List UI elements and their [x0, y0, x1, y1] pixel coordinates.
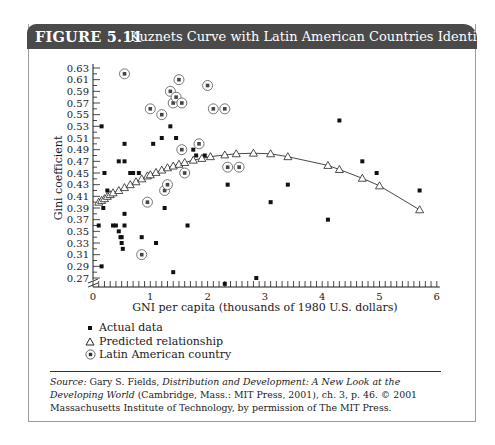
- legend-item-actual: Actual data: [84, 321, 231, 335]
- actual-data-point: [254, 276, 258, 280]
- predicted-point: [267, 150, 275, 157]
- circled-square-icon: [84, 349, 96, 360]
- source-author: Gary S. Fields,: [87, 376, 163, 387]
- y-tick-label: 0.35: [67, 226, 89, 237]
- predicted-point: [358, 174, 366, 181]
- x-axis-label: GNI per capita (thousands of 1980 U.S. d…: [132, 301, 397, 314]
- source-caption: Source: Gary S. Fields, Distribution and…: [50, 375, 450, 414]
- legend-label: Actual data: [99, 321, 163, 335]
- chart-legend: Actual data Predicted relationship Latin…: [84, 321, 231, 362]
- latin-america-point: [177, 98, 187, 108]
- actual-data-point: [223, 282, 227, 286]
- actual-data-point: [168, 124, 172, 128]
- latin-america-point: [162, 180, 172, 190]
- actual-data-point: [191, 148, 195, 152]
- latin-america-point: [194, 139, 204, 149]
- x-tick-label: 0: [90, 291, 96, 302]
- latin-america-point: [137, 250, 147, 260]
- actual-data-point: [160, 136, 164, 140]
- latin-america-point: [208, 104, 218, 114]
- latin-america-point: [234, 162, 244, 172]
- actual-data-point: [154, 241, 158, 245]
- actual-data-point: [337, 119, 341, 123]
- latin-america-point: [145, 104, 155, 114]
- latin-america-point: [220, 104, 230, 114]
- y-tick-label: 0.43: [67, 179, 89, 190]
- y-tick-label: 0.55: [67, 109, 89, 120]
- y-tick-label: 0.59: [67, 86, 89, 97]
- y-tick-label: 0.31: [67, 249, 89, 260]
- y-tick-label: 0.33: [67, 238, 89, 249]
- actual-data-point: [123, 224, 127, 228]
- predicted-point: [335, 166, 343, 173]
- latin-america-point: [177, 145, 187, 155]
- actual-data-point: [174, 136, 178, 140]
- actual-data-point: [123, 142, 127, 146]
- predicted-point: [249, 149, 257, 156]
- predicted-point: [232, 150, 240, 157]
- scatter-plot: 0.630.610.590.570.550.530.510.490.470.45…: [0, 0, 495, 330]
- actual-data-point: [226, 183, 230, 187]
- y-tick-label: 0.37: [67, 214, 89, 225]
- filled-square-icon: [84, 324, 96, 332]
- actual-data-point: [97, 224, 101, 228]
- actual-data-point: [186, 224, 190, 228]
- latin-america-point: [223, 162, 233, 172]
- actual-data-point: [120, 235, 124, 239]
- actual-data-point: [326, 218, 330, 222]
- latin-america-point: [157, 110, 167, 120]
- predicted-point: [416, 206, 424, 213]
- y-tick-label: 0.41: [67, 191, 89, 202]
- y-tick-label: 0.63: [67, 63, 89, 74]
- y-tick-label: 0.49: [67, 144, 89, 155]
- actual-data-point: [131, 171, 135, 175]
- latin-america-point: [174, 75, 184, 85]
- actual-data-point: [121, 247, 125, 251]
- data-points: [95, 69, 424, 286]
- actual-data-point: [100, 124, 104, 128]
- actual-data-point: [100, 264, 104, 268]
- latin-america-point: [142, 197, 152, 207]
- actual-data-point: [117, 159, 121, 163]
- actual-data-point: [140, 235, 144, 239]
- actual-data-point: [163, 206, 167, 210]
- latin-america-point: [180, 168, 190, 178]
- actual-data-point: [137, 171, 141, 175]
- actual-data-point: [114, 224, 118, 228]
- legend-item-predicted: Predicted relationship: [84, 335, 231, 349]
- actual-data-point: [101, 206, 105, 210]
- actual-data-point: [418, 189, 422, 193]
- actual-data-point: [375, 171, 379, 175]
- y-tick-label: 0.47: [67, 156, 89, 167]
- y-tick-label: 0.29: [67, 261, 89, 272]
- y-tick-label: 0.57: [67, 98, 89, 109]
- actual-data-point: [286, 183, 290, 187]
- y-axis-label: Gini coefficient: [52, 135, 65, 220]
- triangle-icon: [84, 337, 96, 346]
- actual-data-point: [360, 159, 364, 163]
- actual-data-point: [269, 200, 273, 204]
- actual-data-point: [117, 229, 121, 233]
- legend-label: Latin American country: [99, 348, 231, 362]
- legend-label: Predicted relationship: [99, 335, 223, 349]
- legend-item-latin-america: Latin American country: [84, 348, 231, 362]
- y-tick-label: 0.39: [67, 203, 89, 214]
- y-tick-label: 0.61: [67, 74, 89, 85]
- x-tick-label: 6: [434, 291, 440, 302]
- source-label: Source:: [50, 376, 87, 387]
- caption-divider: [50, 371, 441, 372]
- axes: 0.630.610.590.570.550.530.510.490.470.45…: [67, 63, 440, 303]
- latin-america-point: [120, 69, 130, 79]
- predicted-point: [376, 182, 384, 189]
- actual-data-point: [123, 212, 127, 216]
- actual-data-point: [123, 159, 127, 163]
- latin-america-point: [203, 81, 213, 91]
- y-tick-label: 0.45: [67, 168, 89, 179]
- actual-data-point: [151, 142, 155, 146]
- y-tick-label: 0.51: [67, 133, 89, 144]
- y-tick-label: 0.27: [67, 273, 89, 284]
- actual-data-point: [171, 270, 175, 274]
- actual-data-point: [194, 154, 198, 158]
- actual-data-point: [120, 241, 124, 245]
- y-tick-label: 0.53: [67, 121, 89, 132]
